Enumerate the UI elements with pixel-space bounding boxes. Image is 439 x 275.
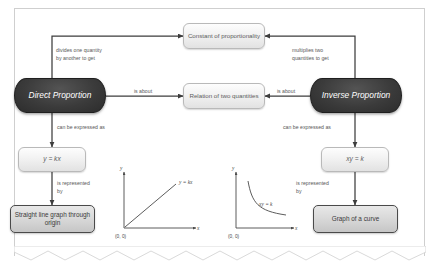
node-direct-formula[interactable]: y = kx — [18, 147, 86, 172]
node-label: y = kx — [43, 155, 60, 163]
node-label: xy = k — [346, 155, 363, 163]
diagram-canvas: y = kx (0, 0) y x xy = k (0, 0) y x Cons… — [0, 0, 439, 275]
edge-label-is-about-inverse: is about — [265, 88, 307, 96]
node-graph-of-a-curve[interactable]: Graph of a curve — [313, 205, 398, 233]
node-constant-of-proportionality[interactable]: Constant of proportionality — [183, 23, 265, 49]
edge-label-multiplies-two-quantities: multiplies two quantities to get — [292, 47, 372, 62]
node-direct-proportion[interactable]: Direct Proportion — [14, 78, 106, 113]
node-label: Direct Proportion — [29, 90, 92, 101]
node-relation-of-two-quantities[interactable]: Relation of two quantities — [183, 83, 265, 109]
node-label: Inverse Proportion — [322, 90, 390, 101]
edge-label-divides-one-quantity: divides one quantity by another to get — [56, 47, 140, 62]
node-label: Relation of two quantities — [189, 92, 258, 100]
node-inverse-formula[interactable]: xy = k — [321, 147, 389, 172]
edge-label-is-about-direct: is about — [122, 88, 164, 96]
edge-label-is-represented-by-direct: is represented by — [57, 180, 117, 195]
edge-label-can-be-expressed-as-direct: can be expressed as — [57, 124, 137, 132]
node-label: Constant of proportionality — [188, 32, 260, 40]
node-label: Straight line graph through origin — [11, 211, 94, 227]
node-straight-line-graph[interactable]: Straight line graph through origin — [10, 205, 95, 233]
edge-label-is-represented-by-inverse: is represented by — [296, 180, 356, 195]
edge-label-can-be-expressed-as-inverse: can be expressed as — [283, 124, 363, 132]
node-inverse-proportion[interactable]: Inverse Proportion — [310, 78, 402, 113]
torn-paper-edge — [14, 246, 426, 270]
node-label: Graph of a curve — [332, 215, 380, 223]
